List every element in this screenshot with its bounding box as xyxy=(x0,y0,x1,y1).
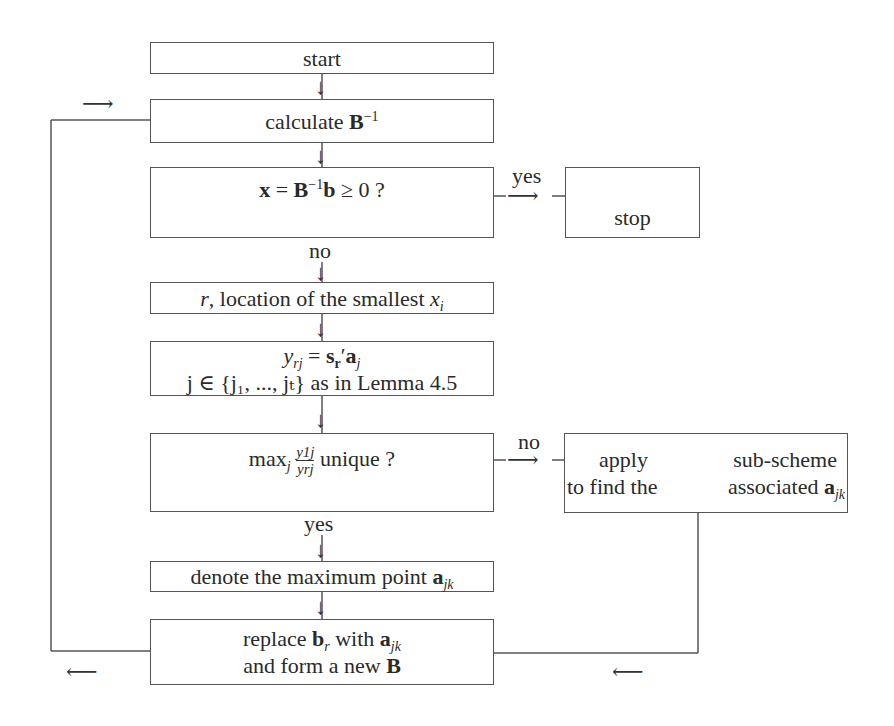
arrow-left-icon: ⟵ xyxy=(66,661,98,683)
node-label-line1: yrj = sr′aj xyxy=(283,342,360,369)
node-label-line2: j ∈ {j₁, ..., jₜ} as in Lemma 4.5 xyxy=(187,369,457,396)
arrow-right-icon: ⟶ xyxy=(507,185,539,207)
arrow-down-icon: ↓ xyxy=(315,76,326,98)
arrow-down-icon: ↓ xyxy=(315,318,326,340)
node-smallest-location: r, location of the smallest xi xyxy=(150,282,494,314)
edge-label-yes: yes xyxy=(304,513,333,535)
node-label: maxj y1jyrj unique ? xyxy=(249,444,395,477)
node-feasibility-check: x = B−1b ≥ 0 ? xyxy=(150,167,494,238)
node-label-line1: applysub-scheme xyxy=(565,446,847,473)
arrow-down-icon: ↓ xyxy=(315,145,326,167)
node-label: calculate B−1 xyxy=(265,108,378,135)
node-label-line2: and form a new B xyxy=(243,652,401,679)
node-max-unique-check: maxj y1jyrj unique ? xyxy=(150,433,494,512)
node-label: start xyxy=(303,45,341,72)
arrow-down-icon: ↓ xyxy=(315,409,326,431)
node-label-line1: replace br with ajk xyxy=(243,625,401,652)
node-label: stop xyxy=(614,204,651,231)
arrow-down-icon: ↓ xyxy=(315,262,326,284)
arrow-left-icon: ⟵ xyxy=(612,661,644,683)
node-compute-yrj: yrj = sr′aj j ∈ {j₁, ..., jₜ} as in Lemm… xyxy=(150,341,494,396)
arrow-down-icon: ↓ xyxy=(315,596,326,618)
arrow-down-icon: ↓ xyxy=(315,539,326,561)
node-label: r, location of the smallest xi xyxy=(200,285,443,312)
node-start: start xyxy=(150,42,494,74)
node-denote-maximum: denote the maximum point ajk xyxy=(150,561,494,592)
node-label: x = B−1b ≥ 0 ? xyxy=(259,176,385,203)
edge-label-yes: yes xyxy=(512,165,541,187)
node-apply-subscheme: applysub-scheme to find theassociated aj… xyxy=(564,433,848,513)
edge-label-no: no xyxy=(309,240,331,262)
node-stop: stop xyxy=(565,167,700,238)
arrow-right-icon: ⟶ xyxy=(82,93,114,115)
node-label: denote the maximum point ajk xyxy=(190,563,453,590)
node-replace-basis: replace br with ajk and form a new B xyxy=(150,619,494,685)
edge-label-no: no xyxy=(518,431,540,453)
fraction: y1jyrj xyxy=(296,444,314,477)
node-label-line2: to find theassociated ajk xyxy=(565,473,847,500)
node-calculate-b-inverse: calculate B−1 xyxy=(150,99,494,143)
